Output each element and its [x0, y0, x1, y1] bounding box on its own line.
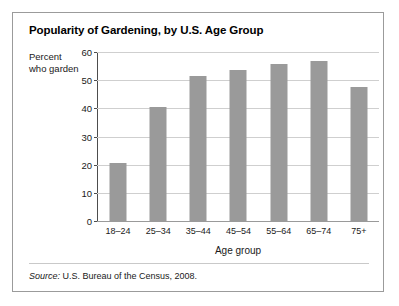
source-note: Source: U.S. Bureau of the Census, 2008.: [29, 271, 197, 281]
bar-slot: [259, 53, 299, 222]
y-axis-title: Percent who garden: [29, 51, 79, 75]
y-tick-label-30: 30: [81, 131, 92, 142]
bar-series: [98, 53, 379, 222]
x-tick-label-65–74: 65–74: [299, 226, 339, 236]
y-tick-mark-40: [94, 108, 97, 109]
plot-area: 0102030405060 18–2425–3435–4445–5455–646…: [97, 51, 379, 223]
y-tick-label-40: 40: [81, 103, 92, 114]
x-tick-label-18–24: 18–24: [98, 226, 138, 236]
bar-slot: [339, 53, 379, 222]
y-tick-mark-10: [94, 193, 97, 194]
chart-card: Popularity of Gardening, by U.S. Age Gro…: [12, 12, 384, 292]
bar-55–64: [270, 64, 287, 222]
y-tick-mark-30: [94, 137, 97, 138]
y-tick-label-10: 10: [81, 187, 92, 198]
x-axis-title: Age group: [97, 245, 379, 256]
footer-divider: [29, 263, 369, 264]
source-value: U.S. Bureau of the Census, 2008.: [60, 271, 197, 281]
x-tick-label-55–64: 55–64: [259, 226, 299, 236]
bar-slot: [98, 53, 138, 222]
bar-75+: [350, 87, 367, 222]
bar-35–44: [190, 76, 207, 222]
x-tick-label-45–54: 45–54: [219, 226, 259, 236]
y-tick-mark-50: [94, 80, 97, 81]
y-tick-mark-0: [94, 221, 97, 222]
y-tick-label-60: 60: [81, 47, 92, 58]
page-title: Popularity of Gardening, by U.S. Age Gro…: [29, 24, 263, 36]
bar-45–54: [230, 70, 247, 222]
x-tick-label-35–44: 35–44: [178, 226, 218, 236]
y-tick-mark-20: [94, 165, 97, 166]
y-tick-label-50: 50: [81, 75, 92, 86]
bar-25–34: [150, 107, 167, 222]
y-tick-label-20: 20: [81, 159, 92, 170]
x-tick-label-25–34: 25–34: [138, 226, 178, 236]
bar-slot: [299, 53, 339, 222]
bar-slot: [218, 53, 258, 222]
bar-18–24: [110, 163, 127, 222]
y-tick-mark-60: [94, 52, 97, 53]
bar-65–74: [310, 61, 327, 222]
x-tick-label-75+: 75+: [339, 226, 379, 236]
source-label: Source:: [29, 271, 60, 281]
y-tick-label-0: 0: [87, 216, 92, 227]
bar-slot: [138, 53, 178, 222]
bar-slot: [178, 53, 218, 222]
